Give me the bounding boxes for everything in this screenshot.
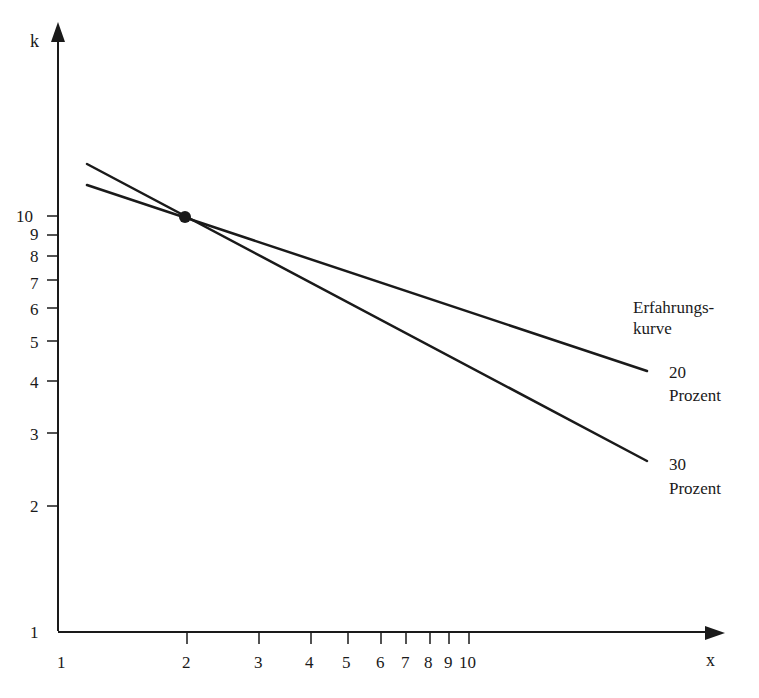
x-tick-label: 6 <box>376 653 385 672</box>
y-axis-arrow-icon <box>51 22 65 42</box>
curve-30-percent <box>87 164 647 461</box>
x-tick-label: 2 <box>182 653 191 672</box>
curve-30-label-unit: Prozent <box>669 479 721 498</box>
y-ticks <box>47 216 58 506</box>
x-tick-label: 3 <box>254 653 263 672</box>
experience-curve-chart: k x 10 9 8 7 6 5 4 3 2 1 1 2 <box>0 0 759 698</box>
x-tick-label: 8 <box>424 653 433 672</box>
y-tick-label: 1 <box>30 623 39 642</box>
y-tick-label: 8 <box>30 247 39 266</box>
y-tick-labels: 10 9 8 7 6 5 4 3 2 1 <box>16 207 39 642</box>
y-tick-label: 10 <box>16 207 33 226</box>
curve-20-label-value: 20 <box>669 363 686 382</box>
y-tick-label: 7 <box>30 274 39 293</box>
y-tick-label: 4 <box>30 373 39 392</box>
y-tick-label: 3 <box>30 425 39 444</box>
curve-20-label-unit: Prozent <box>669 386 721 405</box>
x-tick-label: 10 <box>459 653 476 672</box>
y-tick-label: 5 <box>30 333 39 352</box>
x-tick-label: 7 <box>401 653 410 672</box>
y-tick-label: 9 <box>30 225 39 244</box>
x-tick-label: 9 <box>444 653 453 672</box>
y-axis-title: k <box>30 31 39 51</box>
x-axis-title: x <box>706 650 715 670</box>
x-tick-labels: 1 2 3 4 5 6 7 8 9 10 <box>57 653 476 672</box>
curve-heading-line2: kurve <box>633 319 672 338</box>
curve-20-percent <box>87 185 647 371</box>
y-tick-label: 6 <box>30 300 39 319</box>
x-axis-arrow-icon <box>705 626 725 640</box>
curve-heading-line1: Erfahrungs- <box>633 298 715 317</box>
x-tick-label: 4 <box>305 653 314 672</box>
x-ticks <box>187 632 469 644</box>
y-tick-label: 2 <box>30 497 39 516</box>
curve-30-label-value: 30 <box>669 455 686 474</box>
intersection-point-marker <box>179 211 191 223</box>
x-tick-label: 5 <box>342 653 351 672</box>
x-tick-label: 1 <box>57 653 66 672</box>
